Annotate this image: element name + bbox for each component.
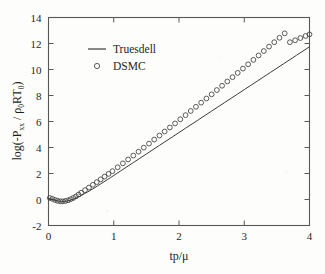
y-title-suffix: ) — [10, 82, 24, 86]
y-tick-label: 14 — [31, 12, 43, 24]
y-title-mid2: RT — [10, 89, 24, 104]
scientific-plot: -202468101214 01234 Truesdell DSMC tp/μ … — [0, 0, 325, 274]
y-tick-label: 0 — [36, 194, 42, 206]
legend-label-dsmc: DSMC — [113, 60, 146, 72]
x-tick-label: 3 — [242, 230, 248, 242]
legend-label-truesdell: Truesdell — [113, 43, 156, 55]
y-tick-label: 10 — [31, 64, 43, 76]
x-axis-title: tp/μ — [169, 249, 188, 263]
y-tick-label: 12 — [31, 38, 42, 50]
x-tick-label: 2 — [176, 230, 182, 242]
y-tick-label: -2 — [32, 220, 41, 232]
y-tick-label: 4 — [36, 142, 42, 154]
y-tick-label: 6 — [36, 116, 42, 128]
y-title-prefix: log(-P — [10, 130, 24, 160]
x-tick-label: 4 — [307, 230, 313, 242]
y-axis-title: log(-Pxx / ρ0RT0) — [10, 82, 26, 161]
y-title-mid: / ρ — [10, 108, 24, 123]
y-tick-label: 2 — [36, 168, 42, 180]
y-tick-label: 8 — [36, 90, 42, 102]
x-tick-label: 1 — [111, 230, 117, 242]
x-tick-label: 0 — [46, 230, 52, 242]
figure-container: -202468101214 01234 Truesdell DSMC tp/μ … — [0, 0, 325, 274]
